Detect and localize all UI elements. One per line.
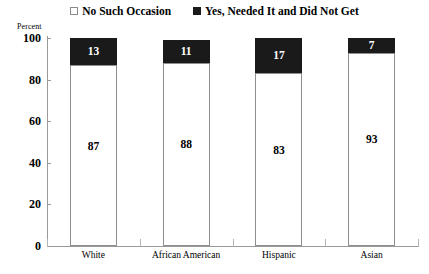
stacked-bar[interactable]: 937 xyxy=(348,38,395,246)
legend-item-needed-did-not-get: Yes, Needed It and Did Not Get xyxy=(193,5,359,17)
x-axis-category-label: Asian xyxy=(361,250,383,260)
bar-value-label: 93 xyxy=(348,133,395,145)
bar-value-label: 83 xyxy=(255,144,302,156)
bar-value-label: 11 xyxy=(181,46,192,58)
legend-label: No Such Occasion xyxy=(82,5,171,17)
chart-legend: No Such Occasion Yes, Needed It and Did … xyxy=(0,2,429,20)
bar-segment-no-such-occasion[interactable] xyxy=(255,73,302,246)
bar-segment-needed-did-not-get[interactable]: 11 xyxy=(163,40,210,63)
y-axis-tick-label: 0 xyxy=(0,239,41,254)
bar-segment-no-such-occasion[interactable] xyxy=(70,65,117,246)
stacked-bar[interactable]: 8811 xyxy=(163,38,210,246)
y-axis-tick-label: 40 xyxy=(0,155,41,170)
bar-segment-no-such-occasion[interactable] xyxy=(348,53,395,246)
legend-label: Yes, Needed It and Did Not Get xyxy=(205,5,359,17)
stacked-bar[interactable]: 8713 xyxy=(70,38,117,246)
stacked-bar[interactable]: 8317 xyxy=(255,38,302,246)
filled-square-icon xyxy=(193,7,201,15)
bar-value-label: 88 xyxy=(163,138,210,150)
x-axis-tick-mark xyxy=(418,239,419,247)
y-axis-tick-label: 60 xyxy=(0,114,41,129)
bar-value-label: 17 xyxy=(273,50,285,62)
bar-segment-needed-did-not-get[interactable]: 17 xyxy=(255,38,302,73)
bar-segment-needed-did-not-get[interactable]: 7 xyxy=(348,38,395,53)
bar-value-label: 7 xyxy=(369,40,375,52)
bar-segment-no-such-occasion[interactable] xyxy=(163,63,210,246)
y-axis-tick-label: 100 xyxy=(0,31,41,46)
bar-value-label: 87 xyxy=(70,140,117,152)
open-square-icon xyxy=(70,7,78,15)
plot-area: 871388118317937 xyxy=(47,38,418,246)
y-axis-tick-label: 80 xyxy=(0,72,41,87)
legend-item-no-such-occasion: No Such Occasion xyxy=(70,5,171,17)
x-axis-category-label: White xyxy=(82,250,105,260)
x-axis-category-label: Hispanic xyxy=(262,250,296,260)
bar-segment-needed-did-not-get[interactable]: 13 xyxy=(70,38,117,65)
y-axis-tick-label: 20 xyxy=(0,197,41,212)
bar-value-label: 13 xyxy=(88,46,100,58)
x-axis-category-label: African American xyxy=(152,250,220,260)
